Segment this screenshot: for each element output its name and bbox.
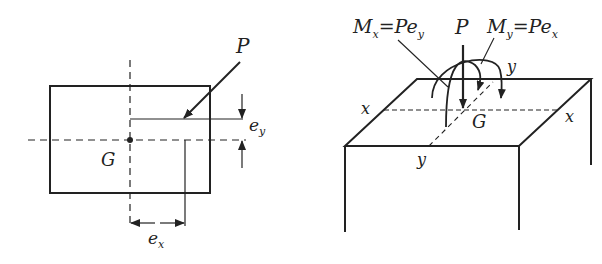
my-formula-label: My=Pex: [486, 15, 559, 41]
plan-view-figure: [28, 60, 246, 226]
ex-label: ex: [148, 228, 165, 251]
x-axis-label-left: x: [361, 99, 370, 118]
load-p-arrow: [184, 62, 240, 118]
x-axis-label-right: x: [565, 107, 574, 126]
y-axis-label-front: y: [416, 150, 427, 169]
load-p-label: P: [454, 15, 469, 39]
centroid-g-label: G: [472, 111, 486, 132]
load-label: P: [235, 34, 250, 58]
centroid-label: G: [101, 149, 115, 170]
mx-formula-label: Mx=Pey: [352, 15, 425, 41]
eccentric-load-diagram: P G ex ey P G Mx=Pey My=Pex x x y y: [0, 0, 602, 264]
centroid-point: [127, 137, 133, 143]
y-axis-label-back: y: [506, 57, 517, 76]
ey-label: ey: [249, 115, 266, 138]
column-3d-figure: [345, 38, 591, 232]
column-top-face: [345, 79, 591, 146]
